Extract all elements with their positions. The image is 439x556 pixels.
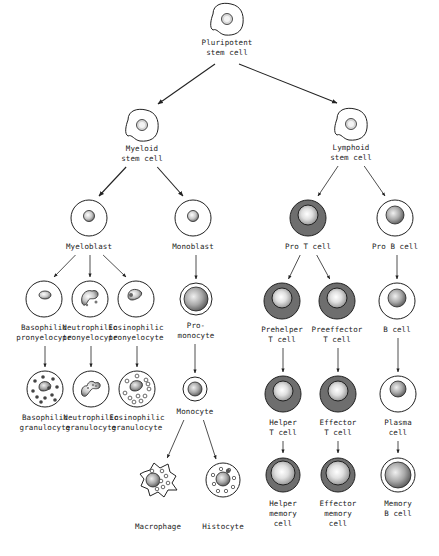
label-prehelper: Prehelper T cell [261, 325, 303, 345]
arrow-monocyte-to-histocyte [203, 420, 216, 459]
diagram-graphics [0, 0, 439, 556]
label-pluripotent: Pluripotent stem cell [202, 38, 253, 58]
cell-baso_gran [27, 371, 63, 407]
label-promonocyte: Pro- monocyte [178, 321, 215, 341]
cell-preeffector [319, 283, 355, 319]
cell-myeloblast [71, 200, 107, 236]
label-eosino_gran: Eosinophilic granulocyte [109, 413, 164, 433]
label-eosino_pro: Eosinophilic pronyelocyte [108, 323, 163, 343]
cell-memory_b [381, 458, 415, 492]
cell-pluripotent [211, 3, 243, 35]
cell-eosino_pro [118, 281, 154, 317]
label-monocyte: Monocyte [177, 407, 214, 417]
arrow-myeloblast-to-eosino_pro [103, 255, 126, 277]
label-b_cell: B cell [383, 325, 411, 335]
cell-neutro_gran [73, 371, 109, 407]
arrow-lymphoid_stem-to-pro_b [364, 166, 385, 196]
label-histocyte: Histocyte [202, 522, 244, 532]
arrow-pro_t-to-preeffector [317, 255, 330, 279]
arrow-pro_t-to-prehelper [289, 255, 301, 279]
cell-helper_mem [266, 458, 300, 492]
label-lymphoid_stem: Lymphoid stem cell [330, 143, 372, 163]
lineage-diagram: Pluripotent stem cellMyeloid stem cellLy… [0, 0, 439, 556]
arrow-monocyte-to-macrophage [167, 420, 184, 458]
label-pro_b: Pro B cell [372, 242, 418, 252]
cell-effector_t [320, 376, 356, 412]
label-myeloblast: Myeloblast [66, 242, 112, 252]
label-effector_t: Effector T cell [320, 418, 357, 438]
cell-effector_mem [321, 458, 355, 492]
cell-baso_pro [26, 281, 62, 317]
label-myeloid_stem: Myeloid stem cell [121, 144, 163, 164]
cell-pro_t [290, 200, 326, 236]
cell-myeloid_stem [126, 109, 158, 141]
label-helper_mem: Helper memory cell [269, 499, 297, 529]
cell-histocyte [206, 463, 240, 497]
cell-macrophage [140, 463, 177, 497]
label-plasma: Plasma cell [384, 418, 412, 438]
arrow-pluripotent-to-myeloid_stem [158, 64, 215, 104]
arrow-myeloblast-to-baso_pro [54, 255, 76, 277]
cell-b_cell [379, 283, 415, 319]
arrow-pluripotent-to-lymphoid_stem [239, 64, 337, 103]
cell-plasma [380, 376, 416, 412]
cell-prehelper [264, 283, 300, 319]
cell-lymphoid_stem [335, 108, 367, 140]
label-preeffector: Preeffector T cell [312, 325, 363, 345]
arrow-myeloid_stem-to-myeloblast [99, 167, 126, 196]
cell-monoblast [175, 200, 211, 236]
cell-promonocyte [180, 283, 212, 315]
label-monoblast: Monoblast [172, 242, 214, 252]
cell-neutro_pro [72, 281, 108, 317]
cell-pro_b [377, 200, 413, 236]
arrow-myeloid_stem-to-monoblast [157, 167, 183, 196]
cell-eosino_gran [119, 371, 155, 407]
label-helper_t: Helper T cell [269, 418, 297, 438]
cell-monocyte [183, 377, 207, 401]
label-memory_b: Memory B cell [384, 499, 412, 519]
cell-helper_t [265, 376, 301, 412]
label-pro_t: Pro T cell [285, 242, 331, 252]
label-effector_mem: Effector memory cell [320, 499, 357, 529]
arrow-lymphoid_stem-to-pro_t [318, 166, 338, 196]
label-macrophage: Macrophage [135, 522, 181, 532]
